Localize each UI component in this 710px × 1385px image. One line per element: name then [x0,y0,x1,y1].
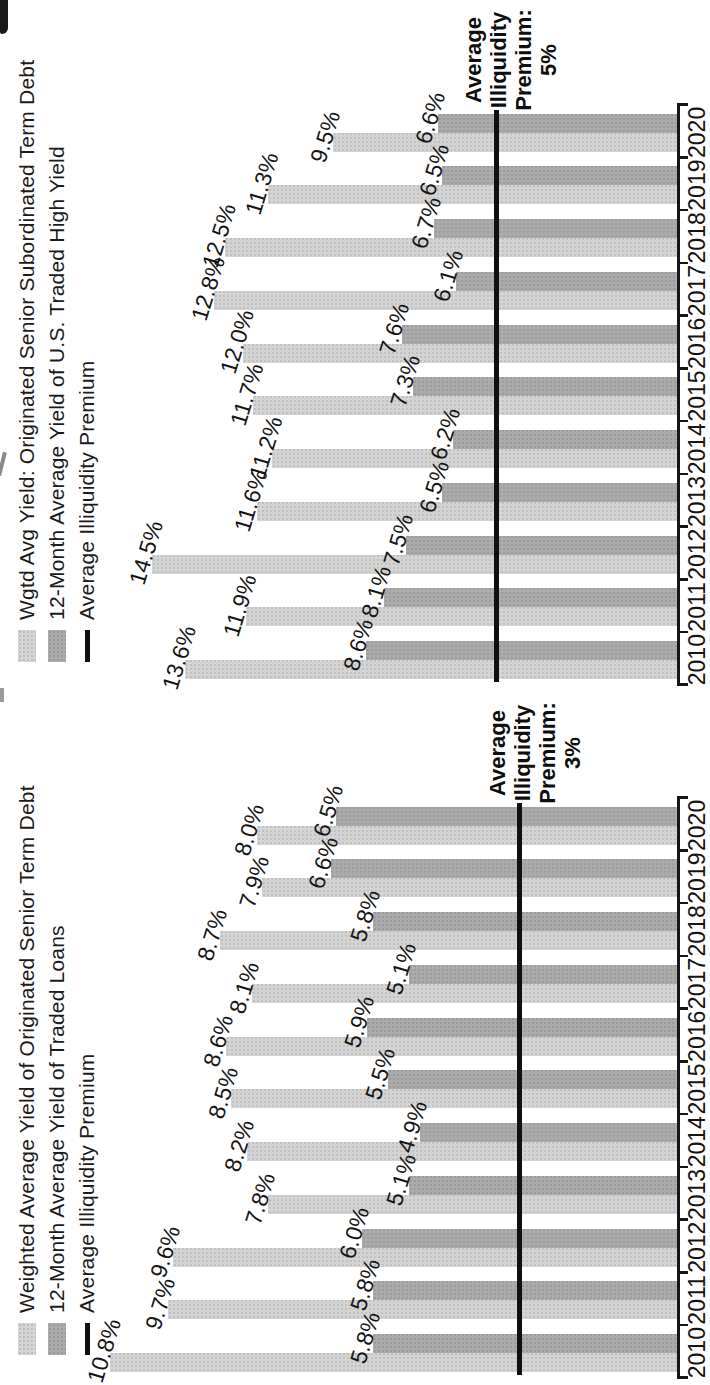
year-label: 2020 [684,799,710,852]
bar-light-2011 [246,607,677,626]
bar-dark-2018 [373,912,678,931]
average-illiquidity-premium-line [517,803,522,1375]
year-label: 2018 [684,904,710,957]
annotation-line: Illiquidity [510,701,535,805]
bar-dark-2016 [367,1018,677,1037]
bar-dark-2020 [438,114,677,133]
bar-value-label: 14.5% [124,517,169,587]
bar-dark-2014 [420,1123,677,1142]
year-label: 2019 [684,159,710,212]
scan-edge-artifact [0,0,8,34]
bar-dark-2017 [409,965,677,984]
bar-dark-2013 [409,1176,677,1195]
bar-value-label: 13.6% [157,623,202,693]
year-label: 2012 [684,528,710,581]
bar-light-2013 [257,502,677,521]
plot-area: 2010201120122013201420152016201720182019… [0,693,710,1385]
year-label: 2016 [684,1010,710,1063]
bar-dark-2020 [336,807,677,826]
bar-dark-2010 [373,1334,678,1353]
bar-dark-2014 [453,430,677,449]
bar-light-2011 [168,1300,677,1319]
bar-value-label: 8.1% [224,959,265,1017]
annotation-line: Illiquidity [486,8,511,112]
bar-light-2018 [220,931,677,950]
bar-light-2016 [243,344,677,363]
category-axis [677,799,680,1379]
year-label: 2014 [684,1115,710,1168]
annotation-line: Average [461,8,486,112]
axis-tick [677,104,688,107]
annotation-line: Premium: [511,8,536,112]
bar-value-label: 11.9% [218,572,262,641]
year-label: 2017 [684,264,710,317]
annotation-line: Average [485,701,510,805]
bar-dark-2018 [434,219,677,238]
year-label: 2020 [684,106,710,159]
bar-value-label: 7.8% [240,1170,281,1228]
bar-light-2012 [152,555,677,574]
bar-light-2010 [110,1353,677,1372]
year-label: 2011 [684,581,710,634]
bar-dark-2012 [406,536,678,555]
scan-edge-artifact [0,688,4,702]
bar-light-2015 [231,1089,677,1108]
plot-area: 2010201120122013201420152016201720182019… [0,0,710,692]
rotated-scan-page: Weighted Average Yield of Originated Sen… [0,0,710,1385]
annotation-line: Premium: [535,701,560,805]
bar-light-2020 [333,133,677,152]
year-label: 2010 [684,633,710,686]
bar-light-2010 [185,660,677,679]
annotation-value: 3% [560,701,585,805]
year-label: 2016 [684,317,710,370]
bar-dark-2010 [366,641,677,660]
bar-dark-2016 [402,325,677,344]
bar-value-label: 12.5% [197,201,242,271]
bar-dark-2015 [388,1070,677,1089]
bar-dark-2019 [442,166,677,185]
bar-light-2016 [226,1037,678,1056]
bar-value-label: 10.8% [82,1316,127,1385]
average-illiquidity-premium-line [494,110,499,682]
year-label: 2014 [684,422,710,475]
category-axis [677,106,680,686]
illiquidity-premium-annotation: Average Illiquidity Premium: 3% [485,701,585,805]
annotation-value: 5% [536,8,561,112]
year-label: 2019 [684,852,710,905]
year-label: 2011 [684,1274,710,1327]
year-label: 2015 [684,1063,710,1116]
year-label: 2012 [684,1221,710,1274]
bar-light-2014 [247,1142,678,1161]
year-label: 2015 [684,370,710,423]
bar-dark-2011 [373,1281,678,1300]
bar-value-label: 8.2% [219,1117,260,1175]
year-label: 2010 [684,1326,710,1379]
bar-light-2019 [268,185,677,204]
bar-value-label: 8.6% [198,1011,239,1069]
year-label: 2017 [684,957,710,1010]
bar-dark-2017 [456,272,677,291]
bar-light-2012 [173,1248,677,1267]
bar-dark-2015 [413,377,677,396]
bar-light-2013 [268,1195,678,1214]
axis-tick [677,797,688,800]
year-label: 2018 [684,211,710,264]
chart-senior-subordinated-term-debt: Wgtd Avg Yield: Originated Senior Subord… [0,0,710,692]
bar-dark-2019 [331,859,678,878]
bar-light-2014 [272,449,677,468]
bar-light-2017 [252,984,677,1003]
year-label: 2013 [684,1168,710,1221]
bar-dark-2013 [442,483,677,502]
illiquidity-premium-annotation: Average Illiquidity Premium: 5% [461,8,561,112]
bar-dark-2011 [384,588,677,607]
bar-value-label: 11.3% [240,150,284,219]
year-label: 2013 [684,475,710,528]
chart-originated-senior-term-debt: Weighted Average Yield of Originated Sen… [0,693,710,1385]
